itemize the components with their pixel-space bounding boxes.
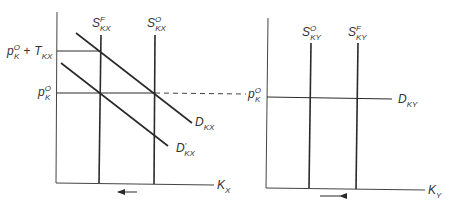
left-y-axis (56, 12, 57, 183)
label-price-original-left: pOK (37, 84, 51, 102)
demand-ky-line (267, 97, 392, 99)
label-x-axis-ky: KY (428, 183, 442, 200)
label-supply-original-kx: SOKX (147, 15, 167, 33)
supply-original-kx-line (154, 35, 155, 184)
label-demand-ky: DKY (398, 92, 418, 109)
label-supply-foreign-kx: SFKX (92, 15, 111, 33)
right-x-axis (266, 188, 425, 190)
label-demand-kx: DKX (195, 115, 215, 132)
supply-foreign-ky-line (356, 43, 358, 189)
label-supply-foreign-ky: SFKY (348, 24, 367, 42)
demand-kx-line (76, 33, 192, 123)
right-y-axis (266, 18, 268, 188)
label-demand-kx-shifted: D′KX (176, 141, 196, 158)
supply-original-ky-line (309, 43, 311, 188)
label-x-axis-kx: KX (217, 178, 231, 195)
left-x-axis (56, 183, 214, 185)
label-price-with-tax: pOK+TKX (6, 43, 53, 61)
left-panel: SFKX SOKX DKX D′KX pOK+TKX pOK KX (6, 12, 246, 195)
price-link-dashed-line (155, 93, 246, 94)
label-supply-original-ky: SOKY (302, 24, 322, 42)
right-panel: SOKY SFKY DKY pOK KY (247, 18, 442, 200)
demand-kx-shifted-line (61, 63, 168, 146)
capital-market-diagram: Exhibit 4-5 SFKX SOKX DKX D′KX pO (0, 0, 449, 207)
supply-foreign-kx-line (99, 35, 101, 183)
label-price-original-right: pOK (247, 86, 261, 104)
